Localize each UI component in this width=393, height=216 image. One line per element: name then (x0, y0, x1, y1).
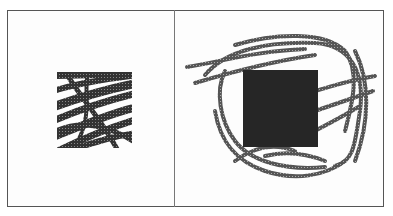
cropped-scribble-image (8, 11, 174, 206)
panel-left-cropped-scribble (8, 11, 174, 206)
mask-square (243, 70, 318, 147)
panel-right-masked-scribble (175, 11, 383, 206)
masked-scribble-image (175, 11, 383, 206)
